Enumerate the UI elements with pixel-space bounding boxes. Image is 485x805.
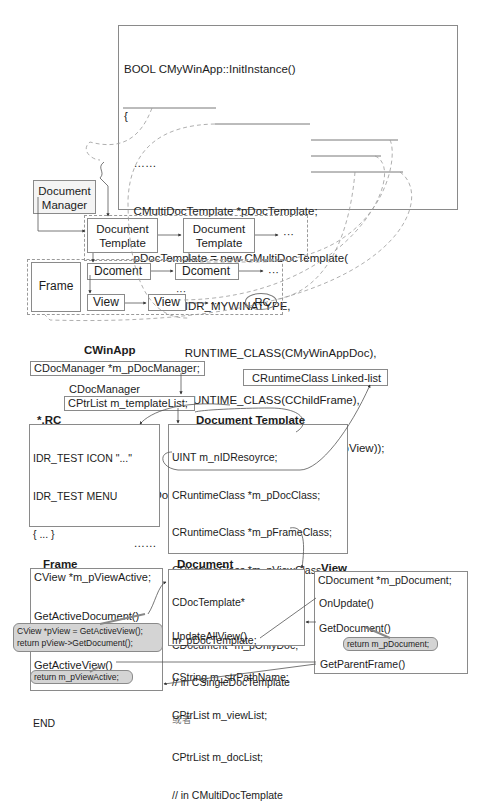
get-document-impl-note: return m_pDocument; [343,637,438,651]
get-parent-frame-method: GetParentFrame() [320,658,405,671]
rc-file-box: IDR_TEST ICON "..." IDR_TEST MENU { ... … [29,424,160,527]
code-line: { [124,109,385,125]
rc-line: { ... } [33,528,132,541]
template-down-ellipsis: ··· [186,253,196,266]
cdocmanager-title: CDocManager [69,383,140,396]
template-comment: // in CMultiDocTemplate [172,789,332,802]
template-field: CPtrList m_docList; [172,751,332,764]
runtime-class-list-box: CRuntimeClass Linked-list [243,369,388,386]
document-manager-label: Document Manager [34,184,95,212]
cdocmanager-member: CPtrList m_templateList; [68,397,188,410]
code-line: BOOL CMyWinApp::InitInstance() [124,62,385,78]
document-label: Dcoment [182,265,230,278]
document-field: CDocTemplate* [172,596,289,609]
view-box: CDocument *m_pDocument; OnUpdate() GetDo… [314,571,468,674]
template-ellipsis: ··· [283,228,294,241]
code-line: …… [124,156,385,172]
get-active-document-method: GetActiveDocument() [34,610,139,623]
document-field: CString m_strPathName; [172,671,289,684]
document-template-box-1: Document Template [87,218,158,253]
get-document-method: GetDocument() [319,622,391,635]
document-ellipsis: ··· [268,266,279,279]
template-field: UINT m_nIDResoyrce; [172,451,332,464]
view-box-1: View [87,294,125,311]
rc-line: END [33,717,132,730]
get-active-view-impl-note: return m_pViewActive; [30,670,133,684]
cwinapp-member: CDocManager *m_pDocManager; [34,362,200,375]
init-instance-code-box: BOOL CMyWinApp::InitInstance() { …… CMul… [118,25,458,210]
rc-line: IDR_TEST MENU [33,490,132,503]
view-ellipsis: ··· [210,297,221,310]
document-field: CPtrList m_viewList; [172,709,289,722]
on-update-method: OnUpdate() [319,597,374,610]
document-box-1: Dcoment [87,263,151,280]
rc-line: IDR_TEST ICON "..." [33,452,132,465]
view-label: View [93,296,119,309]
document-template-label: Document Template [88,222,157,250]
document-template-label: Document Template [184,222,254,250]
document-template-box: UINT m_nIDResoyrce; CRuntimeClass *m_pDo… [168,424,348,554]
view-member: CDocument *m_pDocument; [318,574,452,587]
template-field: CRuntimeClass *m_pDocClass; [172,489,332,502]
update-all-view-method: UpdateAllView() [172,630,247,643]
frame-member: CView *m_pViewActive; [34,571,151,584]
document-box: CDocTemplate* m_pDocTemplate; CString m_… [168,569,305,646]
cdocmanager-box: CPtrList m_templateList; [64,396,195,411]
cwinapp-box: CDocManager *m_pDocManager; [30,361,205,376]
cwinapp-title: CWinApp [84,344,136,357]
frame-label: Frame [32,280,80,293]
template-field: CRuntimeClass *m_pFrameClass; [172,526,332,539]
document-label: Dcoment [94,265,142,278]
document-down-ellipsis: ··· [176,285,186,298]
code-line: RUNTIME_CLASS(CMyWinAppDoc), [124,346,385,362]
rc-label: .RC [246,296,276,309]
document-template-box-2: Document Template [183,218,255,253]
document-manager-box: Document Manager [33,180,96,214]
rc-ellipse: .RC [245,293,277,310]
get-active-document-impl-note: CView *pView = GetActiveView(); return p… [13,623,163,652]
runtime-class-list-label: CRuntimeClass Linked-list [252,372,381,385]
document-box-2: Dcoment [175,263,239,280]
frame-box-upper: Frame [31,262,81,312]
